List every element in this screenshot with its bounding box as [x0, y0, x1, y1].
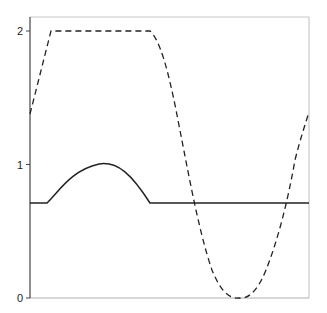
- y-tick-label-1: 1: [17, 159, 23, 171]
- dashed-series-line: [30, 31, 309, 298]
- solid-series-line: [30, 164, 309, 203]
- line-chart: 2 1 0: [0, 0, 327, 313]
- y-axis-ticks: 2 1 0: [17, 25, 30, 304]
- plot-frame: [30, 17, 309, 298]
- y-tick-label-0: 0: [17, 292, 23, 304]
- y-tick-label-2: 2: [17, 25, 23, 37]
